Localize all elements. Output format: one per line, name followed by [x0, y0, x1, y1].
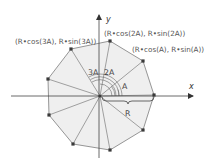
vertex-point: [47, 113, 50, 116]
point-label-3a: (R•cos(3A), R•sin(3A)): [15, 37, 96, 46]
y-axis-label: y: [105, 15, 111, 24]
point-label-2a: (R•cos(2A), R•sin(2A)): [104, 29, 185, 38]
vertex-point: [152, 93, 155, 96]
radius-label: R: [125, 109, 131, 118]
vertex-point: [141, 59, 144, 62]
vertex-point: [108, 148, 111, 151]
center-point: [99, 95, 102, 98]
point-label-a: (R•cos(A), R•sin(A)): [132, 45, 204, 54]
angle-label-3a: 3A: [88, 68, 99, 77]
vertex-point: [69, 47, 72, 50]
angle-label-a: A: [122, 82, 128, 91]
vertex-point: [46, 77, 49, 80]
x-axis-label: x: [188, 82, 194, 91]
angle-label-2a: 2A: [104, 68, 115, 77]
vertex-point: [71, 142, 74, 145]
vertex-point: [141, 128, 144, 131]
polygon-diagram: x y (R•cos(3A), R•sin(3A)) (R•cos(2A), R…: [0, 0, 213, 167]
vertex-point: [108, 39, 111, 42]
